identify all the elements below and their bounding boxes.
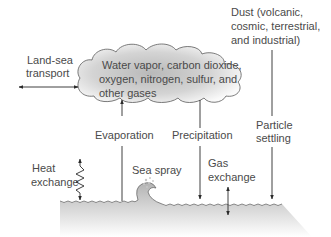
particle-settling-label-1: Particle — [256, 119, 293, 131]
heat-exchange-label-2: exchange — [31, 176, 79, 188]
atmosphere-ocean-diagram: Water vapor, carbon dioxide, oxygen, nit… — [0, 0, 331, 237]
dust-source: Dust (volcanic, cosmic, terrestrial, and… — [231, 6, 320, 46]
land-sea-label-2: transport — [26, 67, 69, 79]
cloud-label-line-3: other gases — [99, 87, 157, 99]
cloud: Water vapor, carbon dioxide, oxygen, nit… — [78, 44, 242, 103]
sea-surface-line — [60, 183, 282, 206]
dust-label-2: cosmic, terrestrial, — [231, 20, 320, 32]
gas-exchange-label-1: Gas — [208, 157, 229, 169]
precipitation: Precipitation — [172, 100, 233, 199]
land-sea-label-1: Land-sea — [27, 54, 74, 66]
gas-exchange-label-2: exchange — [208, 171, 256, 183]
land-sea-transport: Land-sea transport — [19, 54, 78, 87]
sea-spray: Sea spray — [132, 164, 182, 176]
heat-exchange-label-1: Heat — [32, 162, 55, 174]
heat-exchange: Heat exchange — [31, 159, 84, 200]
evaporation-label: Evaporation — [95, 129, 154, 141]
cloud-label-line-1: Water vapor, carbon dioxide, — [102, 59, 242, 71]
particle-settling: Particle settling — [256, 50, 293, 199]
particle-settling-label-2: settling — [256, 132, 291, 144]
precipitation-label: Precipitation — [172, 129, 233, 141]
dust-label-3: and industrial) — [231, 34, 300, 46]
sea — [60, 177, 312, 237]
sea-spray-label: Sea spray — [132, 164, 182, 176]
dust-label-1: Dust (volcanic, — [231, 6, 303, 18]
sea-body — [60, 183, 312, 237]
cloud-label-line-2: oxygen, nitrogen, sulfur, and — [99, 73, 237, 85]
